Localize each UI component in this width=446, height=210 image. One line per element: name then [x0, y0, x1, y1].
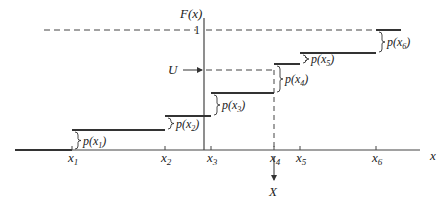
x-axis-label: x	[429, 148, 436, 163]
jump-label: p(x2)	[175, 117, 199, 133]
jump-brace	[379, 32, 385, 52]
cdf-inverse-transform-diagram: F(x) x 1 U X x1x2x3x4x5x6 p(x1)p(x2)p(x3…	[0, 0, 446, 210]
jump-label: p(x4)	[284, 72, 308, 88]
cdf-steps	[15, 30, 401, 150]
x-tick-label: x3	[206, 150, 218, 167]
jump-label: p(x1)	[82, 134, 106, 150]
x-ticks: x1x2x3x4x5x6	[67, 146, 383, 167]
jump-brace	[168, 118, 174, 129]
y-axis-label: F(x)	[179, 6, 202, 21]
jump-label: p(x5)	[310, 52, 334, 68]
jump-brace	[75, 132, 81, 149]
x-tick-label: x5	[295, 150, 307, 167]
jump-label: p(x3)	[221, 98, 245, 114]
x-tick-label: x1	[67, 150, 78, 167]
x-tick-label: x6	[371, 150, 383, 167]
jump-label: p(x6)	[386, 35, 410, 51]
x-tick-label: x2	[160, 150, 172, 167]
result-label: X	[268, 184, 278, 199]
jump-brace	[277, 66, 283, 92]
jump-brace	[303, 55, 309, 63]
u-label: U	[168, 62, 179, 77]
x-tick-label: x4	[269, 150, 281, 167]
level-one-label: 1	[194, 23, 200, 37]
jump-brace	[214, 95, 220, 115]
jump-labels: p(x1)p(x2)p(x3)p(x4)p(x5)p(x6)	[75, 32, 410, 150]
